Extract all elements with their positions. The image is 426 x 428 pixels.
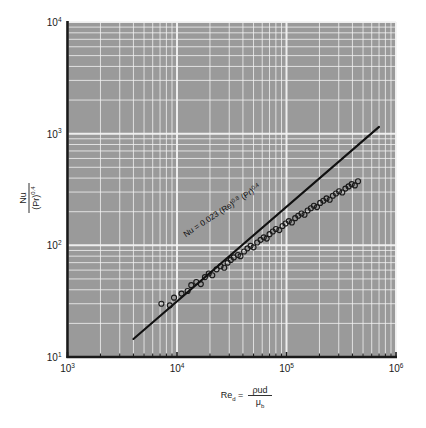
svg-text:105: 105 (279, 362, 294, 375)
svg-text:μb: μb (256, 397, 265, 409)
figure-container: Nu = 0.023 (Re)0.8 (Pr)0.4 103104105106 … (0, 0, 426, 428)
loglog-scatter-chart: Nu = 0.023 (Re)0.8 (Pr)0.4 103104105106 … (0, 0, 426, 428)
x-axis-title: Red = ρudμb (221, 385, 272, 409)
svg-text:ρud: ρud (252, 385, 267, 395)
svg-text:(Pr)0.4: (Pr)0.4 (30, 186, 41, 210)
y-axis-title: Nu(Pr)0.4 (18, 183, 41, 213)
svg-text:104: 104 (47, 16, 62, 29)
svg-text:101: 101 (47, 351, 62, 364)
plot-area-background (68, 22, 397, 357)
svg-text:104: 104 (170, 362, 185, 375)
svg-text:Nu: Nu (18, 192, 28, 204)
svg-text:103: 103 (60, 362, 75, 375)
y-axis-tick-labels: 101102103104 (47, 16, 62, 364)
svg-text:Red =: Red = (221, 390, 244, 402)
svg-text:106: 106 (389, 362, 404, 375)
svg-text:103: 103 (47, 127, 62, 140)
svg-text:102: 102 (47, 239, 62, 252)
x-axis-tick-labels: 103104105106 (60, 362, 404, 375)
